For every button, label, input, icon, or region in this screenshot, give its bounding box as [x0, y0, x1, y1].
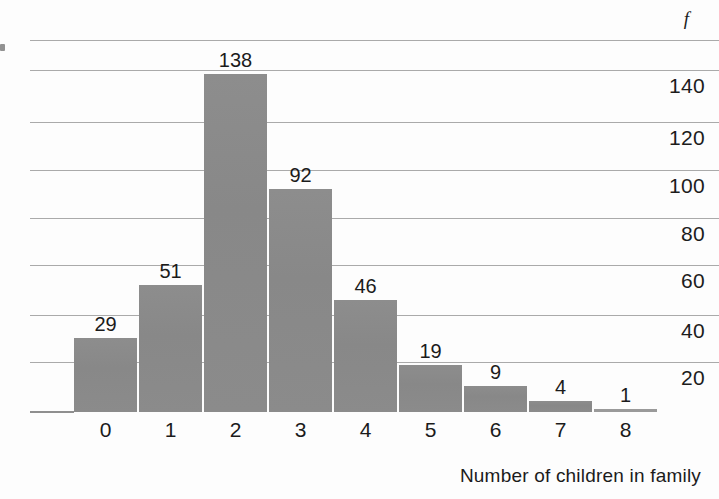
bar-value-4: 46	[334, 275, 397, 298]
bar-value-0: 29	[74, 313, 137, 336]
bar-7	[529, 401, 592, 412]
gridline-100	[30, 170, 719, 171]
bar-3	[269, 189, 332, 412]
y-tick-label-120: 120	[669, 126, 705, 150]
bar-value-1: 51	[139, 260, 202, 283]
bar-value-3: 92	[269, 164, 332, 187]
bar-value-6: 9	[464, 361, 527, 384]
x-tick-label-7: 7	[529, 418, 592, 442]
histogram-chart: f 140 120 100 80 60 40 20 29 51 138 92 4…	[0, 0, 719, 499]
bar-value-8: 1	[594, 384, 657, 407]
bar-2	[204, 74, 267, 412]
y-axis-symbol: f	[684, 8, 689, 30]
bar-value-2: 138	[204, 49, 267, 72]
bar-8	[594, 409, 657, 412]
y-tick-label-80: 80	[681, 222, 705, 246]
x-tick-label-3: 3	[269, 418, 332, 442]
bar-6	[464, 386, 527, 412]
x-tick-label-4: 4	[334, 418, 397, 442]
y-tick-label-40: 40	[681, 319, 705, 343]
baseline-tick-stub	[30, 411, 74, 413]
y-tick-label-100: 100	[669, 174, 705, 198]
scan-artifact-mark	[0, 44, 5, 51]
x-tick-label-2: 2	[204, 418, 267, 442]
x-tick-label-6: 6	[464, 418, 527, 442]
y-tick-label-20: 20	[681, 366, 705, 390]
x-tick-label-5: 5	[399, 418, 462, 442]
gridline-60	[30, 265, 719, 266]
bar-value-7: 4	[529, 376, 592, 399]
x-tick-label-1: 1	[139, 418, 202, 442]
bar-4	[334, 300, 397, 412]
gridline-140	[30, 70, 719, 71]
y-tick-label-60: 60	[681, 269, 705, 293]
bar-1	[139, 285, 202, 412]
bar-value-5: 19	[399, 340, 462, 363]
x-axis-title: Number of children in family	[460, 465, 701, 487]
bar-5	[399, 365, 462, 412]
gridline-120	[30, 122, 719, 123]
y-tick-label-140: 140	[669, 74, 705, 98]
gridline-80	[30, 218, 719, 219]
x-tick-label-8: 8	[594, 418, 657, 442]
gridline-160	[30, 40, 719, 41]
x-tick-label-0: 0	[74, 418, 137, 442]
bar-0	[74, 338, 137, 412]
